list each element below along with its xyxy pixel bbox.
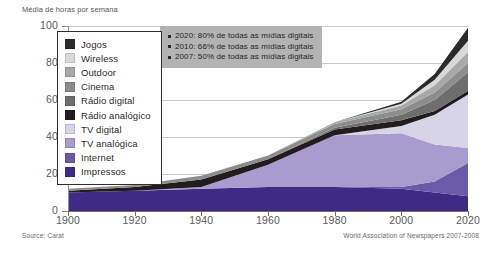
bullet-icon: [168, 45, 171, 48]
legend-item[interactable]: Internet: [65, 151, 151, 165]
legend-swatch-icon: [65, 82, 75, 92]
y-tick-label: 80: [14, 56, 58, 68]
chart-legend: JogosWirelessOutdoorCinemaRádio digitalR…: [57, 31, 162, 185]
legend-swatch-icon: [65, 110, 75, 120]
legend-item[interactable]: TV analógica: [65, 136, 151, 150]
source-note: Source: Carat: [22, 232, 64, 239]
callout-line: 2020: 80% de todas as mídias digitais: [168, 31, 313, 42]
legend-item[interactable]: Rádio analógico: [65, 108, 151, 122]
callout-line-text: 2020: 80% de todas as mídias digitais: [175, 31, 313, 40]
legend-swatch-icon: [65, 138, 75, 148]
legend-item[interactable]: Wireless: [65, 51, 151, 65]
legend-item-label: TV analógica: [81, 138, 138, 149]
legend-item-label: TV digital: [81, 124, 122, 135]
y-axis-title: Média de horas por semana: [22, 5, 118, 14]
stacked-area-chart: Média de horas por semana 020406080100 1…: [0, 0, 501, 258]
legend-swatch-icon: [65, 96, 75, 106]
y-tick-label: 100: [14, 19, 58, 31]
legend-item[interactable]: Impressos: [65, 165, 151, 179]
x-tick-mark: [201, 211, 202, 216]
attribution-note: World Association of Newspapers 2007-200…: [343, 232, 479, 239]
legend-item[interactable]: Jogos: [65, 37, 151, 51]
legend-swatch-icon: [65, 67, 75, 77]
legend-item[interactable]: TV digital: [65, 122, 151, 136]
bullet-icon: [168, 56, 171, 59]
x-tick-mark: [268, 211, 269, 216]
x-tick-mark: [468, 211, 469, 216]
legend-item[interactable]: Rádio digital: [65, 94, 151, 108]
legend-item-label: Jogos: [81, 39, 107, 50]
legend-item-label: Cinema: [81, 81, 114, 92]
callout-line-text: 2007: 50% de todas as mídias digitais: [175, 52, 313, 61]
legend-item[interactable]: Cinema: [65, 80, 151, 94]
legend-swatch-icon: [65, 39, 75, 49]
legend-item[interactable]: Outdoor: [65, 65, 151, 79]
legend-item-label: Wireless: [81, 53, 118, 64]
callout-line: 2010: 66% de todas as mídias digitais: [168, 42, 313, 53]
y-tick-label: 20: [14, 167, 58, 179]
legend-swatch-icon: [65, 153, 75, 163]
callout-line-text: 2010: 66% de todas as mídias digitais: [175, 42, 313, 51]
legend-swatch-icon: [65, 53, 75, 63]
legend-item-label: Rádio analógico: [81, 110, 151, 121]
legend-item-label: Internet: [81, 152, 114, 163]
callout-line: 2007: 50% de todas as mídias digitais: [168, 52, 313, 63]
x-tick-mark: [68, 211, 69, 216]
legend-item-label: Impressos: [81, 166, 126, 177]
x-tick-mark: [401, 211, 402, 216]
legend-swatch-icon: [65, 167, 75, 177]
bullet-icon: [168, 35, 171, 38]
legend-item-label: Rádio digital: [81, 95, 135, 106]
y-tick-label: 40: [14, 130, 58, 142]
y-tick-mark: [62, 26, 68, 27]
legend-item-label: Outdoor: [81, 67, 116, 78]
x-tick-mark: [335, 211, 336, 216]
legend-swatch-icon: [65, 124, 75, 134]
y-tick-label: 60: [14, 93, 58, 105]
callout-box: 2020: 80% de todas as mídias digitais201…: [160, 26, 322, 68]
x-tick-mark: [135, 211, 136, 216]
